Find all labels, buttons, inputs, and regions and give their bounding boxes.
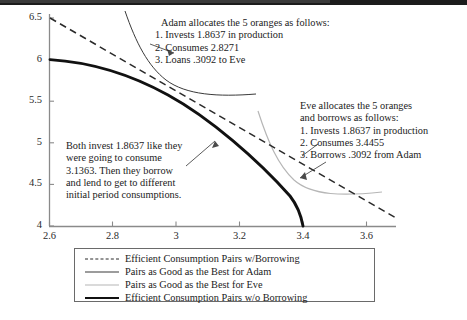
eve-allocation-line-4: 2. Consumes 3.4455 <box>300 137 384 149</box>
legend-label-best-for-adam: Pairs as Good as the Best for Adam <box>120 266 271 277</box>
x-tick-label-3-2: 3.2 <box>223 230 256 241</box>
eve-allocation-line-1: Eve allocates the 5 oranges <box>300 100 412 112</box>
x-tick-label-2-6: 2.6 <box>33 230 66 241</box>
y-tick-label-4: 4 <box>8 219 42 230</box>
legend-item-best-for-adam[interactable]: Pairs as Good as the Best for Adam <box>75 265 374 278</box>
y-tick-label-4-5: 4.5 <box>8 177 42 188</box>
y-tick-label-5-5: 5.5 <box>8 94 42 105</box>
adam-allocation-line-3: 2. Consumes 2.8271 <box>155 42 239 54</box>
adam-allocation-line-4: 3. Loans .3092 to Eve <box>155 54 245 66</box>
x-axis-ticks <box>50 222 367 227</box>
y-tick-label-6-5: 6.5 <box>8 11 42 22</box>
both-invest-line-4: and lend to get to different <box>66 177 175 189</box>
legend-label-efficient-with-borrowing: Efficient Consumption Pairs w/Borrowing <box>120 253 300 264</box>
x-tick-label-3: 3 <box>160 230 193 241</box>
y-tick-label-6: 6 <box>8 53 42 64</box>
both-invest-line-2: were going to consume <box>66 152 162 164</box>
y-axis-ticks <box>50 18 55 226</box>
x-tick-label-3-4: 3.4 <box>287 230 320 241</box>
legend-item-efficient-without-borrowing[interactable]: Efficient Consumption Pairs w/o Borrowin… <box>75 291 374 304</box>
dashed-line-key <box>82 253 120 265</box>
legend-label-efficient-without-borrowing: Efficient Consumption Pairs w/o Borrowin… <box>120 292 307 303</box>
legend-item-best-for-eve[interactable]: Pairs as Good as the Best for Eve <box>75 278 374 291</box>
chart-legend: Efficient Consumption Pairs w/Borrowing … <box>74 248 375 302</box>
eve-allocation-line-3: 1. Invests 1.8637 in production <box>300 125 428 137</box>
thin-line-key <box>82 266 120 278</box>
gray-line-key <box>82 279 120 291</box>
thick-line-key <box>82 292 120 304</box>
annotation-arrowheads <box>167 49 307 180</box>
adam-allocation-line-2: 1. Invests 1.8637 in production <box>155 29 283 41</box>
legend-label-best-for-eve: Pairs as Good as the Best for Eve <box>120 279 263 290</box>
eve-allocation-line-5: 3. Borrows .3092 from Adam <box>300 149 421 161</box>
both-invest-line-1: Both invest 1.8637 like they <box>66 140 182 152</box>
x-tick-label-3-6: 3.6 <box>350 230 383 241</box>
x-tick-label-2-8: 2.8 <box>96 230 129 241</box>
both-invest-line-5: initial period consumptions. <box>66 189 181 201</box>
adam-allocation-line-1: Adam allocates the 5 oranges as follows: <box>161 17 330 29</box>
both-invest-line-3: 3.1363. Then they borrow <box>66 165 173 177</box>
legend-item-efficient-with-borrowing[interactable]: Efficient Consumption Pairs w/Borrowing <box>75 252 374 265</box>
y-tick-label-5: 5 <box>8 136 42 147</box>
chart-page: 6.5 6 5.5 5 4.5 4 2.6 2.8 3 3.2 3.4 3.6 … <box>0 0 467 320</box>
eve-allocation-line-2: and borrows as follows: <box>300 112 399 124</box>
